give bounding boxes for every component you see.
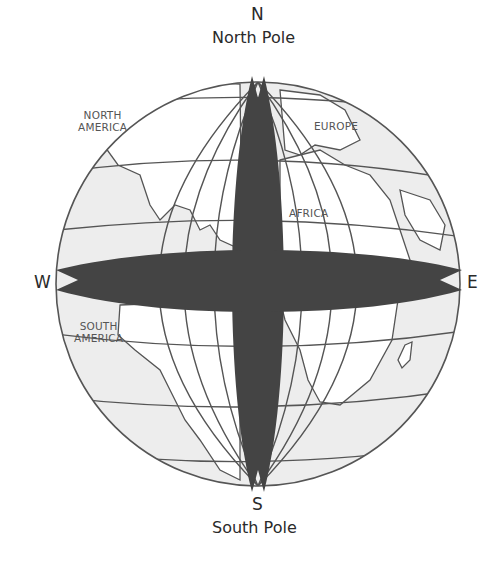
globe-diagram	[0, 0, 501, 564]
north-america-label: NORTH AMERICA	[78, 109, 127, 133]
west-label: W	[34, 272, 51, 292]
africa-label: AFRICA	[289, 207, 328, 219]
north-pole-label: North Pole	[212, 28, 295, 47]
east-label: E	[467, 272, 478, 292]
north-america-label-line1: NORTH	[78, 109, 127, 121]
europe-label: EUROPE	[314, 120, 358, 132]
south-label: S	[252, 494, 263, 514]
south-america-label: SOUTH AMERICA	[74, 320, 123, 344]
south-america-label-line2: AMERICA	[74, 332, 123, 344]
north-america-label-line2: AMERICA	[78, 121, 127, 133]
south-pole-label: South Pole	[212, 518, 297, 537]
north-label: N	[251, 4, 264, 24]
south-america-label-line1: SOUTH	[74, 320, 123, 332]
